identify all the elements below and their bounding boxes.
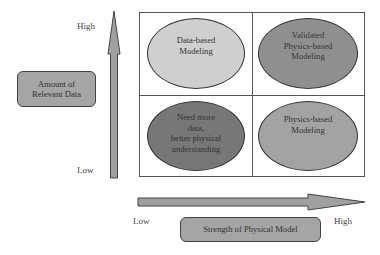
y-axis-low-label: Low: [77, 165, 94, 175]
quadrant-data-based-modeling: Data-based Modeling: [147, 18, 245, 89]
quadrant-label: Physics-based Modeling: [284, 114, 333, 135]
y-axis-title-box: Amount of Relevant Data: [17, 71, 96, 107]
y-axis-title: Amount of Relevant Data: [32, 79, 81, 100]
grid-horizontal-divider: [140, 95, 364, 96]
horizontal-arrow-icon: [136, 191, 370, 213]
y-axis-high-label: High: [77, 21, 95, 31]
x-axis-title-box: Strength of Physical Model: [180, 217, 321, 242]
x-axis-title: Strength of Physical Model: [203, 224, 297, 235]
quadrant-label: Validated Physics-based Modeling: [284, 30, 333, 62]
quadrant-validated-physics-modeling: Validated Physics-based Modeling: [258, 18, 358, 89]
quadrant-label: Need more data, better physical understa…: [171, 112, 221, 154]
quadrant-physics-based-modeling: Physics-based Modeling: [258, 101, 358, 171]
quadrant-label: Data-based Modeling: [177, 35, 216, 56]
quadrant-need-more-data: Need more data, better physical understa…: [147, 101, 245, 171]
x-axis-low-label: Low: [133, 216, 150, 226]
x-axis-high-label: High: [334, 216, 352, 226]
vertical-arrow-icon: [104, 8, 124, 180]
